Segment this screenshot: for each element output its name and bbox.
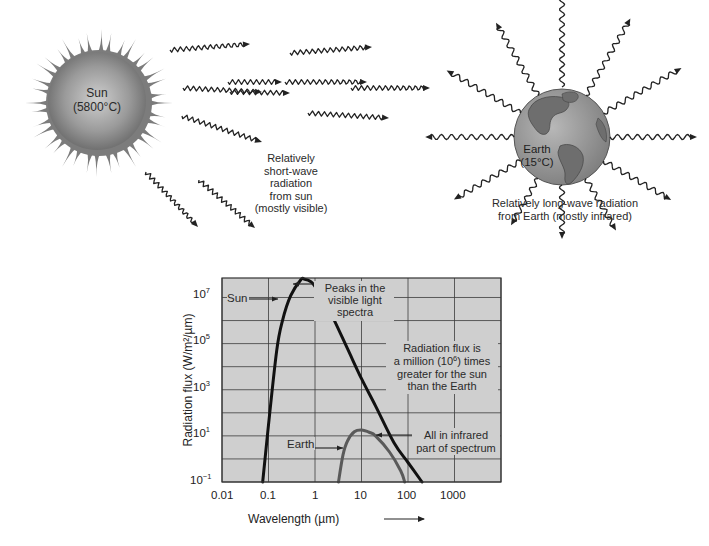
y-tick-1e5: 105	[193, 334, 210, 346]
y-axis-title: Radiation flux (W/m²/µm)	[181, 300, 195, 460]
note-line: than the Earth	[386, 380, 498, 393]
sun-curve-label: Sun	[227, 292, 247, 305]
y-tick-1e-1: 10−1	[190, 474, 211, 486]
note-line: Radiation flux is	[386, 342, 498, 355]
y-tick-1e3: 103	[193, 381, 210, 393]
note-line: greater for the sun	[386, 368, 498, 381]
note-line: Peaks in the	[316, 282, 394, 294]
earth-curve-label: Earth	[287, 438, 315, 451]
note-line: part of spectrum	[412, 442, 500, 455]
x-tick-100: 100	[397, 489, 416, 501]
infrared-note: All in infrared part of spectrum	[412, 429, 500, 454]
exponent: 6	[453, 354, 457, 363]
x-axis-title: Wavelength (µm)	[248, 512, 339, 526]
note-line: spectra	[316, 306, 394, 318]
note-text: ) times	[457, 355, 490, 367]
note-text: a million (10	[394, 355, 453, 367]
y-tick-1e1: 101	[193, 427, 210, 439]
note-line: visible light	[316, 294, 394, 306]
x-tick-0.1: 0.1	[260, 489, 276, 501]
note-line: All in infrared	[412, 429, 500, 442]
x-tick-1: 1	[312, 489, 318, 501]
note-line: a million (106) times	[386, 355, 498, 368]
x-tick-10: 10	[354, 489, 367, 501]
x-tick-1000: 1000	[440, 489, 466, 501]
x-tick-0.01: 0.01	[211, 489, 233, 501]
peak-note: Peaks in the visible light spectra	[316, 282, 394, 318]
radiation-spectrum-chart	[0, 0, 709, 546]
million-times-note: Radiation flux is a million (106) times …	[386, 342, 498, 393]
y-tick-1e7: 107	[193, 288, 210, 300]
